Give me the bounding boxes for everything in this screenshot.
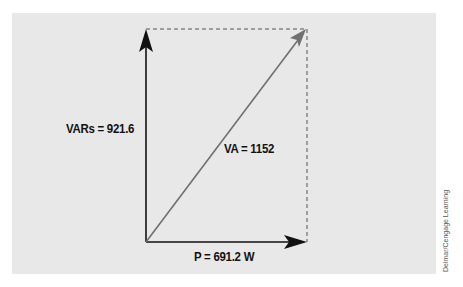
p-label: P = 691.2 W <box>194 249 254 264</box>
va-arrowhead-icon <box>290 29 306 47</box>
image-credit: Delmar/Cengage Learning <box>442 190 449 272</box>
va-vector-line <box>146 40 298 242</box>
vars-label: VARs = 921.6 <box>66 121 134 136</box>
va-label: VA = 1152 <box>224 141 274 156</box>
